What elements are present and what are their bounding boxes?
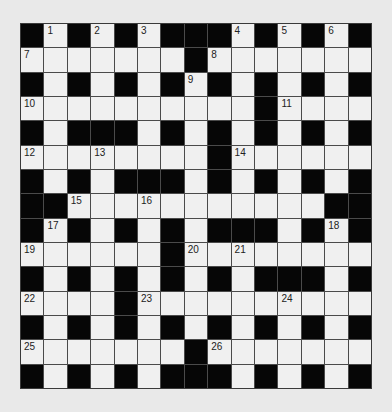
answer-cell[interactable] xyxy=(325,170,347,193)
answer-cell[interactable] xyxy=(91,48,113,71)
answer-cell[interactable]: 5 xyxy=(278,24,300,47)
answer-cell[interactable] xyxy=(161,194,183,217)
answer-cell[interactable] xyxy=(325,121,347,144)
answer-cell[interactable] xyxy=(302,146,324,169)
answer-cell[interactable] xyxy=(349,292,371,315)
answer-cell[interactable] xyxy=(44,365,66,388)
answer-cell[interactable]: 21 xyxy=(232,243,254,266)
answer-cell[interactable] xyxy=(68,340,90,363)
answer-cell[interactable] xyxy=(232,73,254,96)
answer-cell[interactable]: 22 xyxy=(21,292,43,315)
answer-cell[interactable] xyxy=(185,316,207,339)
answer-cell[interactable]: 19 xyxy=(21,243,43,266)
answer-cell[interactable] xyxy=(278,243,300,266)
answer-cell[interactable] xyxy=(208,194,230,217)
answer-cell[interactable]: 26 xyxy=(208,340,230,363)
answer-cell[interactable] xyxy=(138,219,160,242)
answer-cell[interactable] xyxy=(115,97,137,120)
answer-cell[interactable] xyxy=(161,340,183,363)
answer-cell[interactable] xyxy=(138,365,160,388)
answer-cell[interactable]: 17 xyxy=(44,219,66,242)
answer-cell[interactable] xyxy=(115,194,137,217)
answer-cell[interactable] xyxy=(138,146,160,169)
answer-cell[interactable] xyxy=(302,243,324,266)
answer-cell[interactable] xyxy=(91,340,113,363)
answer-cell[interactable] xyxy=(91,316,113,339)
answer-cell[interactable] xyxy=(115,48,137,71)
answer-cell[interactable] xyxy=(44,243,66,266)
answer-cell[interactable]: 25 xyxy=(21,340,43,363)
answer-cell[interactable]: 11 xyxy=(278,97,300,120)
answer-cell[interactable] xyxy=(44,316,66,339)
answer-cell[interactable]: 1 xyxy=(44,24,66,47)
answer-cell[interactable] xyxy=(232,267,254,290)
answer-cell[interactable] xyxy=(161,97,183,120)
answer-cell[interactable] xyxy=(115,243,137,266)
answer-cell[interactable] xyxy=(349,48,371,71)
answer-cell[interactable] xyxy=(138,340,160,363)
answer-cell[interactable] xyxy=(232,121,254,144)
answer-cell[interactable]: 7 xyxy=(21,48,43,71)
answer-cell[interactable] xyxy=(232,97,254,120)
answer-cell[interactable] xyxy=(302,194,324,217)
answer-cell[interactable] xyxy=(278,48,300,71)
answer-cell[interactable] xyxy=(349,146,371,169)
answer-cell[interactable]: 20 xyxy=(185,243,207,266)
answer-cell[interactable] xyxy=(302,292,324,315)
answer-cell[interactable] xyxy=(278,316,300,339)
answer-cell[interactable] xyxy=(255,243,277,266)
answer-cell[interactable] xyxy=(68,97,90,120)
answer-cell[interactable] xyxy=(232,316,254,339)
answer-cell[interactable] xyxy=(232,48,254,71)
answer-cell[interactable] xyxy=(185,170,207,193)
answer-cell[interactable] xyxy=(185,97,207,120)
answer-cell[interactable]: 2 xyxy=(91,24,113,47)
answer-cell[interactable] xyxy=(255,194,277,217)
answer-cell[interactable] xyxy=(91,243,113,266)
answer-cell[interactable] xyxy=(185,194,207,217)
answer-cell[interactable] xyxy=(349,97,371,120)
answer-cell[interactable] xyxy=(302,48,324,71)
answer-cell[interactable]: 6 xyxy=(325,24,347,47)
answer-cell[interactable] xyxy=(91,267,113,290)
answer-cell[interactable] xyxy=(325,292,347,315)
answer-cell[interactable] xyxy=(325,340,347,363)
answer-cell[interactable] xyxy=(185,219,207,242)
answer-cell[interactable] xyxy=(325,97,347,120)
answer-cell[interactable] xyxy=(44,340,66,363)
answer-cell[interactable] xyxy=(44,73,66,96)
answer-cell[interactable] xyxy=(91,365,113,388)
answer-cell[interactable] xyxy=(349,340,371,363)
answer-cell[interactable] xyxy=(278,170,300,193)
answer-cell[interactable] xyxy=(44,146,66,169)
answer-cell[interactable]: 15 xyxy=(68,194,90,217)
answer-cell[interactable] xyxy=(138,267,160,290)
answer-cell[interactable] xyxy=(185,267,207,290)
answer-cell[interactable] xyxy=(91,170,113,193)
answer-cell[interactable] xyxy=(302,97,324,120)
answer-cell[interactable]: 24 xyxy=(278,292,300,315)
answer-cell[interactable] xyxy=(325,316,347,339)
answer-cell[interactable] xyxy=(302,340,324,363)
answer-cell[interactable] xyxy=(91,73,113,96)
answer-cell[interactable] xyxy=(138,243,160,266)
answer-cell[interactable] xyxy=(208,97,230,120)
answer-cell[interactable] xyxy=(185,146,207,169)
answer-cell[interactable] xyxy=(138,97,160,120)
answer-cell[interactable] xyxy=(91,97,113,120)
answer-cell[interactable] xyxy=(138,316,160,339)
answer-cell[interactable] xyxy=(138,48,160,71)
answer-cell[interactable] xyxy=(68,48,90,71)
answer-cell[interactable] xyxy=(138,121,160,144)
answer-cell[interactable] xyxy=(325,267,347,290)
answer-cell[interactable] xyxy=(278,194,300,217)
answer-cell[interactable] xyxy=(115,340,137,363)
answer-cell[interactable] xyxy=(232,365,254,388)
answer-cell[interactable] xyxy=(138,73,160,96)
answer-cell[interactable] xyxy=(325,243,347,266)
answer-cell[interactable] xyxy=(325,146,347,169)
answer-cell[interactable]: 23 xyxy=(138,292,160,315)
answer-cell[interactable] xyxy=(44,97,66,120)
answer-cell[interactable] xyxy=(68,146,90,169)
answer-cell[interactable] xyxy=(161,146,183,169)
